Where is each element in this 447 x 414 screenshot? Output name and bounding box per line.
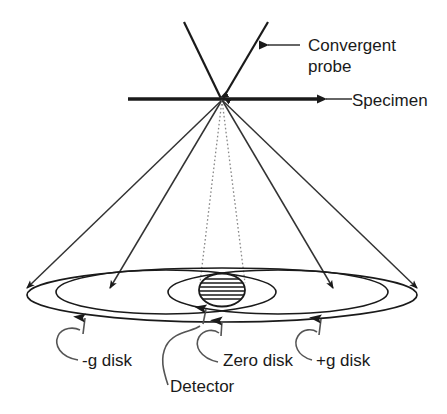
zero-disk-leader-curve bbox=[197, 330, 219, 362]
detector-label: Detector bbox=[170, 377, 235, 396]
ray-inner-right bbox=[222, 100, 333, 288]
zero-disk-label: Zero disk bbox=[223, 351, 293, 370]
ray-outer-left bbox=[27, 100, 222, 288]
plus-g-disk-label: +g disk bbox=[316, 351, 371, 370]
plus-g-disk-leader-curve bbox=[296, 330, 317, 360]
minus-g-disk-leader-arrow bbox=[83, 318, 85, 334]
diffracted-cone-rays bbox=[27, 100, 417, 288]
diagram-canvas: Convergent probe Specimen -g disk Detect… bbox=[0, 0, 447, 414]
detector-disk bbox=[197, 274, 247, 307]
probe-ray-right bbox=[224, 22, 269, 98]
ray-center-left-dotted bbox=[200, 100, 222, 283]
minus-g-disk-leader-curve bbox=[57, 328, 80, 360]
probe-ray-left bbox=[184, 22, 221, 98]
specimen-label: Specimen bbox=[352, 91, 428, 110]
convergent-probe-label-line1: Convergent bbox=[308, 36, 396, 55]
ray-inner-left bbox=[110, 100, 222, 288]
ray-outer-right bbox=[222, 100, 417, 288]
minus-g-disk-label: -g disk bbox=[82, 351, 133, 370]
plus-g-disk-leader-arrow bbox=[319, 319, 321, 335]
cbed-ray-diagram: Convergent probe Specimen -g disk Detect… bbox=[0, 0, 447, 414]
convergent-probe-label-line2: probe bbox=[308, 57, 351, 76]
convergent-probe-rays bbox=[184, 22, 268, 98]
ray-center-right-dotted bbox=[222, 100, 245, 283]
zero-disk-leader-arrow bbox=[221, 321, 222, 336]
